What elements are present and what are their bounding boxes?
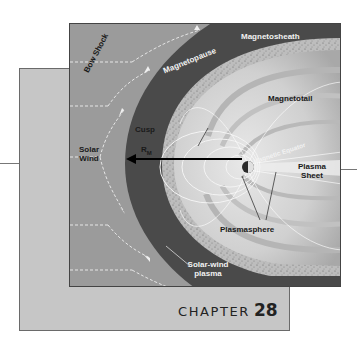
- cusp-label: Cusp: [135, 125, 155, 134]
- chapter-number: 28: [254, 300, 278, 320]
- right-rule-line: [340, 169, 357, 170]
- magnetosphere-diagram: Magnetosheath Bow Shock Magnetopause Mag…: [69, 23, 341, 287]
- magnetosphere-illustration: [70, 24, 341, 287]
- magnetosheath-label: Magnetosheath: [241, 32, 300, 41]
- chapter-word: CHAPTER: [178, 304, 250, 319]
- solar-wind-plasma-label: Solar-wind plasma: [180, 260, 236, 278]
- left-rule-line: [0, 163, 20, 164]
- rm-label: RM: [141, 145, 152, 158]
- chapter-heading: CHAPTER28: [178, 300, 278, 320]
- solar-wind-label: Solar Wind: [72, 145, 106, 163]
- plasmasphere-label: Plasmasphere: [220, 225, 274, 234]
- plasma-sheet-label: Plasma Sheet: [290, 162, 334, 180]
- magnetotail-label: Magnetotail: [268, 94, 312, 103]
